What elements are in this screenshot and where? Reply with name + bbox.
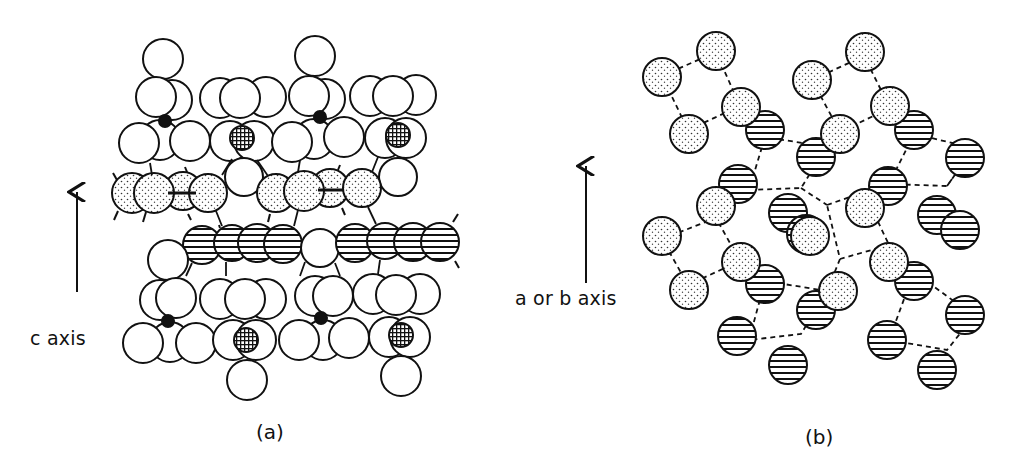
black-dot-atom xyxy=(162,315,174,327)
open-atom xyxy=(136,77,176,117)
open-atom xyxy=(376,275,416,315)
open-atom xyxy=(119,123,159,163)
open-atom xyxy=(176,323,216,363)
open-atom xyxy=(170,121,210,161)
panel-a xyxy=(112,36,459,400)
caption-a: (a) xyxy=(256,420,284,444)
open-atom xyxy=(313,276,353,316)
open-atom xyxy=(295,36,335,76)
open-atom xyxy=(381,356,421,396)
hatched-layer-a xyxy=(183,214,459,268)
ab-axis-label: a or b axis xyxy=(515,287,617,309)
open-atom xyxy=(329,318,369,358)
hatched-atoms-b xyxy=(718,111,984,389)
open-atom xyxy=(227,360,267,400)
crosshatched-atom xyxy=(230,126,254,150)
figure-canvas xyxy=(0,0,1015,474)
panel-b xyxy=(643,32,984,389)
open-atom xyxy=(301,229,339,267)
open-atom xyxy=(279,320,319,360)
caption-b: (b) xyxy=(805,425,833,449)
open-atom xyxy=(379,158,417,196)
open-atom xyxy=(143,39,183,79)
black-dot-atom xyxy=(159,115,171,127)
c-axis-label: c axis xyxy=(30,327,86,349)
open-atom xyxy=(272,122,312,162)
open-atom xyxy=(289,76,329,116)
open-atom xyxy=(373,76,413,116)
open-atom xyxy=(148,240,188,280)
open-atom xyxy=(225,279,265,319)
crosshatched-atom xyxy=(389,323,413,347)
open-atom xyxy=(324,117,364,157)
open-atom xyxy=(123,323,163,363)
crosshatched-atom xyxy=(234,328,258,352)
black-dot-atom xyxy=(314,111,326,123)
crosshatched-atom xyxy=(386,123,410,147)
open-atom xyxy=(220,78,260,118)
open-atom xyxy=(156,278,196,318)
black-dot-atom xyxy=(315,312,327,324)
